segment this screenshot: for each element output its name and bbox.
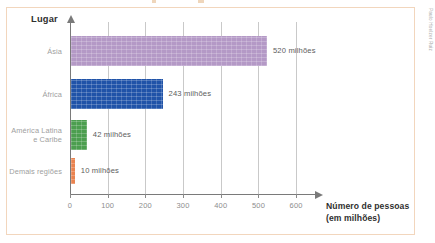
bar-texture (71, 158, 75, 184)
x-axis-title-line1: Número de pessoas (326, 201, 409, 211)
x-tick-label: 600 (290, 201, 303, 210)
cropped-title-mark (152, 0, 156, 3)
x-tick-label: 300 (177, 201, 190, 210)
bar (71, 79, 163, 109)
y-axis-arrow-icon (67, 15, 75, 23)
bar (71, 158, 75, 184)
x-tick-mark (108, 194, 109, 198)
plot-area: 0100200300400500600 520 milhões243 milhõ… (70, 22, 315, 194)
x-tick-mark (221, 194, 222, 198)
x-tick-label: 400 (214, 201, 227, 210)
x-axis-title: Número de pessoas (em milhões) (326, 201, 409, 224)
category-label: Demais regiões (0, 167, 62, 176)
x-tick-label: 500 (252, 201, 265, 210)
bar-value-label: 10 milhões (81, 166, 119, 175)
category-label: África (0, 90, 62, 99)
x-axis-arrow-icon (315, 191, 323, 199)
x-tick-label: 100 (101, 201, 114, 210)
bar-value-label: 243 milhões (169, 89, 212, 98)
category-label: Ásia (0, 47, 62, 56)
x-tick-mark (258, 194, 259, 198)
x-tick-mark (145, 194, 146, 198)
bar-texture (71, 36, 267, 66)
x-tick-mark (183, 194, 184, 198)
category-label: América Latina e Caribe (0, 126, 62, 144)
cropped-title-mark (198, 0, 204, 3)
x-tick-mark (70, 194, 71, 198)
y-axis-title: Lugar (31, 14, 58, 24)
x-tick-label: 0 (68, 201, 72, 210)
chart-figure: Lugar 0100200300400500600 520 milhões243… (0, 0, 435, 243)
bar-texture (71, 79, 163, 109)
bar-value-label: 520 milhões (273, 46, 316, 55)
x-tick-label: 200 (139, 201, 152, 210)
bar-value-label: 42 milhões (93, 130, 131, 139)
bar (71, 120, 87, 150)
x-axis-title-line2: (em milhões) (326, 213, 409, 225)
image-credit: Paulo Hoelzer Ruiz (428, 8, 433, 51)
x-tick-mark (296, 194, 297, 198)
bar (71, 36, 267, 66)
bar-texture (71, 120, 87, 150)
